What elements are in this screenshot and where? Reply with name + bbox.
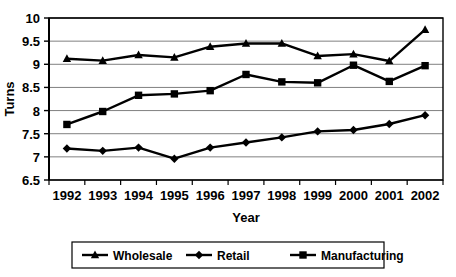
- x-tick-label: 1998: [267, 188, 296, 203]
- x-tick-label: 2001: [375, 188, 404, 203]
- chart-legend: WholesaleRetailManufacturing: [72, 242, 404, 268]
- marker-square: [350, 62, 357, 69]
- x-tick-label: 1999: [303, 188, 332, 203]
- y-tick-label: 8.5: [22, 80, 40, 95]
- marker-square: [135, 92, 142, 99]
- marker-square: [278, 78, 285, 85]
- marker-square: [206, 87, 213, 94]
- marker-square: [299, 251, 306, 258]
- marker-square: [171, 90, 178, 97]
- y-tick-label: 9: [33, 57, 40, 72]
- marker-square: [421, 62, 428, 69]
- legend-label: Wholesale: [113, 249, 173, 263]
- x-tick-label: 1996: [196, 188, 225, 203]
- chart-container: 6.577.588.599.510 1992199319941995199619…: [0, 0, 456, 277]
- y-tick-label: 9.5: [22, 34, 40, 49]
- x-tick-label: 1994: [124, 188, 154, 203]
- x-tick-label: 1992: [52, 188, 81, 203]
- x-tick-label: 1993: [88, 188, 117, 203]
- y-tick-label: 7.5: [22, 127, 40, 142]
- x-tick-label: 1995: [160, 188, 189, 203]
- y-tick-label: 7: [33, 150, 40, 165]
- y-tick-label: 10: [26, 11, 40, 26]
- x-tick-label: 2002: [411, 188, 440, 203]
- marker-square: [314, 79, 321, 86]
- x-tick-label: 1997: [232, 188, 261, 203]
- marker-square: [242, 71, 249, 78]
- marker-square: [386, 78, 393, 85]
- line-chart: 6.577.588.599.510 1992199319941995199619…: [0, 0, 456, 277]
- x-tick-labels: 1992199319941995199619971998199920002001…: [52, 188, 439, 203]
- legend-label: Retail: [217, 249, 250, 263]
- marker-square: [99, 108, 106, 115]
- legend-label: Manufacturing: [321, 249, 404, 263]
- y-tick-label: 6.5: [22, 173, 40, 188]
- marker-square: [63, 121, 70, 128]
- x-tick-label: 2000: [339, 188, 368, 203]
- x-axis-title: Year: [232, 210, 259, 225]
- y-axis-title: Turns: [2, 81, 17, 116]
- y-tick-label: 8: [33, 104, 40, 119]
